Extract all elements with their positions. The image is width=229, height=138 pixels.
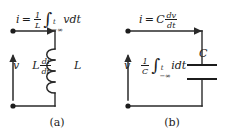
di-over-dt: didt (40, 57, 50, 75)
terminal-dot-bottom (10, 103, 15, 108)
derivative-numerator: di (40, 57, 50, 66)
fraction-denominator: L (34, 20, 41, 28)
dv-over-dt: dvdt (165, 11, 177, 29)
one-over-C: 1C (141, 57, 149, 75)
eq-equals: = (143, 13, 157, 26)
panel-a-caption: (a) (0, 117, 114, 128)
one-over-L: 1L (34, 11, 41, 29)
derivative-numerator: dv (165, 11, 177, 20)
circuit-figure: i = 1L∫t−∞vdt vLdidt L (a) (0, 0, 229, 138)
integral-lower-limit: −∞ (159, 73, 170, 80)
capacitor-voltage-equation: v1C∫t−∞idt (124, 57, 186, 75)
fraction-denominator: C (141, 66, 149, 74)
panel-capacitor: i = Cdvdt v1C∫t−∞idt C (b) (115, 0, 229, 138)
terminal-dot-top (125, 28, 130, 33)
integral-sign: ∫ (151, 60, 160, 70)
fraction-numerator: 1 (34, 11, 41, 20)
terminal-voltage-label: v (13, 59, 19, 72)
integral-sign: ∫ (44, 14, 53, 24)
derivative-denominator: dt (40, 66, 50, 74)
terminal-voltage-label: v (124, 59, 130, 72)
differential-dt: dt (69, 13, 80, 26)
integral-lower-limit: −∞ (52, 27, 63, 34)
fraction-numerator: 1 (141, 57, 149, 66)
inductor-voltage-equation: vLdidt (13, 57, 52, 75)
coefficient-L: L (32, 59, 39, 72)
current-arrow-head (194, 27, 202, 35)
terminal-dot-top (10, 28, 15, 33)
panel-inductor: i = 1L∫t−∞vdt vLdidt L (a) (0, 0, 114, 138)
capacitor-plates (187, 65, 217, 79)
differential-dt: dt (175, 59, 186, 72)
inductor-label: L (74, 60, 81, 71)
coefficient-C: C (156, 13, 164, 26)
capacitor-current-equation: i = Cdvdt (139, 11, 178, 29)
panel-b-caption: (b) (115, 117, 229, 128)
eq-equals: = (20, 13, 34, 26)
inductor-current-equation: i = 1L∫t−∞vdt (16, 11, 81, 29)
derivative-denominator: dt (165, 20, 177, 28)
capacitor-label: C (199, 48, 207, 59)
terminal-dot-bottom (125, 103, 130, 108)
